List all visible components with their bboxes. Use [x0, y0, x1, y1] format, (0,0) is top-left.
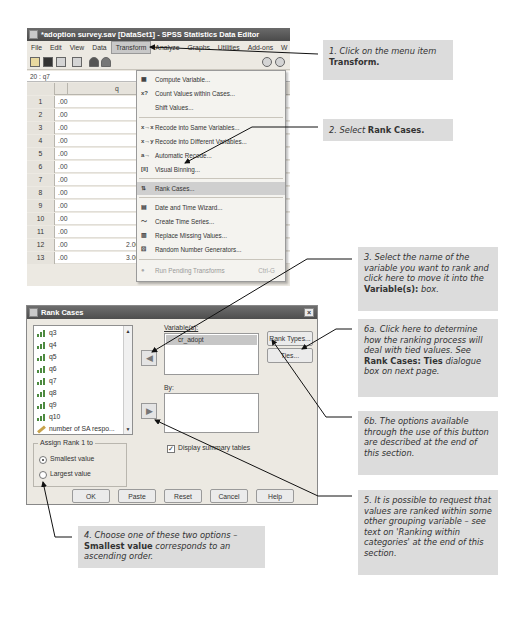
scale-variable-icon [37, 354, 46, 361]
close-icon[interactable]: × [304, 308, 314, 317]
menu-view[interactable]: View [66, 41, 89, 54]
by-label: By: [164, 384, 174, 391]
variables-box[interactable]: cr_adopt [164, 333, 259, 375]
callout-step-4: 4. Choose one of these two options – Sma… [78, 526, 265, 568]
smallest-value-radio[interactable] [39, 456, 47, 464]
dialog-title: Rank Cases [41, 308, 84, 317]
menu-item-create-time-series[interactable]: 〜Create Time Series... [137, 215, 285, 228]
callout-step-6a: 6a. Click here to determine how the rank… [358, 319, 498, 397]
menu-item-run-pending-transforms: ●Run Pending TransformsCtrl-G [137, 264, 285, 277]
use-sets-icon[interactable] [275, 57, 285, 67]
recode-same-icon: x→x [141, 124, 150, 131]
display-summary-checkbox[interactable]: ✓ [167, 445, 175, 453]
by-box[interactable] [164, 393, 259, 433]
undo-icon[interactable] [89, 57, 99, 67]
scroll-down-icon[interactable]: ▼ [124, 425, 132, 433]
list-scrollbar[interactable]: ▲ ▼ [123, 326, 132, 434]
value-labels-icon[interactable] [262, 57, 272, 67]
menu-data[interactable]: Data [88, 41, 110, 54]
move-to-by-button[interactable]: ▶ [141, 403, 157, 419]
scale-variable-icon [37, 390, 46, 397]
menu-item-random-number-generators[interactable]: ⚄Random Number Generators... [137, 243, 285, 256]
menu-item-replace-missing[interactable]: ▥Replace Missing Values... [137, 229, 285, 242]
menu-window[interactable]: W [277, 41, 290, 54]
reset-button[interactable]: Reset [164, 489, 202, 503]
binning-icon: [‖] [141, 166, 150, 173]
ok-button[interactable]: OK [72, 489, 110, 503]
menu-item-count-values[interactable]: x?Count Values within Cases... [137, 87, 285, 100]
menu-item-recode-same[interactable]: x→xRecode into Same Variables... [137, 121, 285, 134]
menu-addons[interactable]: Add-ons [244, 41, 277, 54]
smallest-value-label[interactable]: Smallest value [50, 455, 94, 462]
rank-types-button[interactable]: Rank Types... [267, 331, 313, 346]
largest-value-label[interactable]: Largest value [50, 470, 91, 477]
list-item[interactable]: q8 [36, 387, 57, 399]
menu-analyze[interactable]: Analyze [151, 41, 183, 54]
variables-label: Variable(s): [164, 324, 198, 331]
redo-icon[interactable] [101, 57, 111, 67]
menu-item-compute-variable[interactable]: ▦Compute Variable... [137, 73, 285, 86]
menu-edit[interactable]: Edit [46, 41, 66, 54]
print-icon[interactable] [56, 57, 66, 67]
list-item[interactable]: q3 [36, 327, 57, 339]
dialog-recall-icon[interactable] [72, 57, 82, 67]
move-to-variables-button[interactable]: ◀ [141, 350, 157, 366]
menu-item-recode-different[interactable]: x→yRecode into Different Variables... [137, 135, 285, 148]
recode-different-icon: x→y [141, 138, 150, 145]
source-variable-list[interactable]: q3 q4 q5 q6 q7 q8 q9 q10 number of SA re… [33, 325, 133, 435]
list-item[interactable]: q9 [36, 399, 57, 411]
rank-cases-dialog: Rank Cases × q3 q4 q5 q6 q7 q8 q9 q10 nu… [26, 305, 318, 505]
list-item[interactable]: q5 [36, 351, 57, 363]
menu-file[interactable]: File [27, 41, 46, 54]
ruler-variable-icon [37, 425, 46, 433]
paste-button[interactable]: Paste [118, 489, 156, 503]
menu-separator [139, 117, 283, 118]
menu-item-automatic-recode[interactable]: a→Automatic Recode... [137, 149, 285, 162]
list-item[interactable]: number of SA respo... [36, 423, 115, 435]
corner-cell [27, 83, 55, 95]
editor-title: *adoption survey.sav [DataSet1] - SPSS S… [41, 30, 259, 39]
list-item[interactable]: q4 [36, 339, 57, 351]
callout-step-3: 3. Select the name of the variable you w… [358, 247, 498, 311]
menu-item-rank-cases[interactable]: ⇅Rank Cases... [137, 182, 285, 195]
list-item[interactable]: q7 [36, 375, 57, 387]
rank-icon: ⇅ [141, 185, 150, 192]
save-icon[interactable] [43, 57, 53, 67]
help-button[interactable]: Help [256, 489, 294, 503]
assign-rank-group: Assign Rank 1 to Smallest value Largest … [33, 443, 127, 487]
callout-step-5: 5. It is possible to request that values… [358, 490, 498, 575]
scale-variable-icon [37, 402, 46, 409]
menu-item-visual-binning[interactable]: [‖]Visual Binning... [137, 163, 285, 176]
dialog-titlebar: Rank Cases × [27, 306, 317, 319]
menu-item-shift-values[interactable]: Shift Values... [137, 101, 285, 114]
scale-variable-icon [37, 378, 46, 385]
list-item[interactable]: q10 [36, 411, 60, 423]
open-icon[interactable] [30, 57, 40, 67]
calculator-icon: ▦ [141, 76, 150, 83]
menu-utilities[interactable]: Utilities [214, 41, 244, 54]
column-header[interactable]: q [115, 83, 119, 95]
shortcut-label: Ctrl-G [258, 264, 275, 277]
callout-step-2: 2. Select Rank Cases. [323, 119, 453, 141]
calendar-icon: ▤ [141, 204, 150, 211]
arrow-right-icon: ▶ [146, 406, 153, 416]
selected-variable[interactable]: cr_adopt [166, 335, 257, 345]
largest-value-radio[interactable] [39, 471, 47, 479]
scroll-up-icon[interactable]: ▲ [124, 327, 132, 335]
menu-transform[interactable]: Transform [111, 41, 152, 54]
count-icon: x? [141, 90, 150, 97]
ties-button[interactable]: Ties... [267, 348, 313, 363]
menu-separator [139, 178, 283, 179]
menubar: FileEditViewDataTransformAnalyzeGraphsUt… [27, 41, 290, 54]
scale-variable-icon [37, 414, 46, 421]
menu-separator [139, 197, 283, 198]
automatic-recode-icon: a→ [141, 152, 150, 159]
menu-graphs[interactable]: Graphs [184, 41, 214, 54]
spss-data-editor-window: *adoption survey.sav [DataSet1] - SPSS S… [27, 28, 290, 286]
cancel-button[interactable]: Cancel [210, 489, 248, 503]
toolbar [27, 54, 290, 70]
display-summary-label[interactable]: Display summary tables [178, 444, 250, 451]
list-item[interactable]: q6 [36, 363, 57, 375]
menu-item-date-time-wizard[interactable]: ▤Date and Time Wizard... [137, 201, 285, 214]
rank-cases-icon [29, 308, 38, 317]
